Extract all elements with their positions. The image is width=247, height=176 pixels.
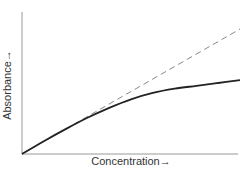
chart-plot (0, 0, 247, 176)
x-axis-label: Concentration→ (22, 155, 240, 167)
y-axis-label: Absorbance→ (1, 40, 15, 130)
